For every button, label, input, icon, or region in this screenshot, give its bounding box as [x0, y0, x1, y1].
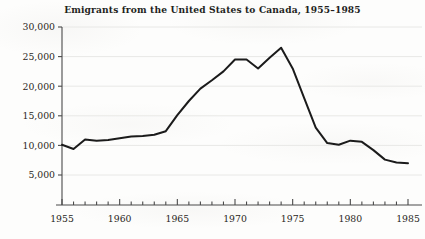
- y-axis-tick-label: 5,000: [28, 169, 55, 180]
- y-axis-tick-label: 30,000: [22, 21, 55, 32]
- chart-figure: Emigrants from the United States to Cana…: [0, 0, 425, 239]
- x-axis-tick-label: 1980: [338, 213, 362, 224]
- x-axis-tick-label: 1965: [165, 213, 189, 224]
- x-axis: 1955196019651970197519801985: [50, 199, 422, 224]
- x-axis-tick-label: 1970: [223, 213, 247, 224]
- y-axis: 5,00010,00015,00020,00025,00030,000: [22, 21, 62, 205]
- y-axis-tick-label: 20,000: [22, 81, 55, 92]
- x-axis-tick-label: 1955: [50, 213, 74, 224]
- y-axis-tick-label: 10,000: [22, 140, 55, 151]
- x-axis-tick-label: 1985: [396, 213, 420, 224]
- x-axis-tick-label: 1975: [281, 213, 305, 224]
- chart-plot-area: 5,00010,00015,00020,00025,00030,000 1955…: [0, 0, 425, 239]
- y-axis-tick-label: 25,000: [22, 51, 55, 62]
- x-axis-tick-label: 1960: [108, 213, 132, 224]
- gridlines-group: [62, 27, 422, 175]
- y-axis-tick-label: 15,000: [22, 110, 55, 121]
